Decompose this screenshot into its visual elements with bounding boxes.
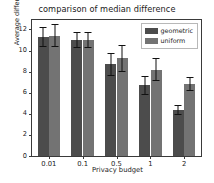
y-tick-mark [29,72,32,73]
bar-geometric-0.01 [38,37,49,156]
error-bar-cap-bottom [186,90,193,91]
bar-uniform-0.01 [49,36,60,156]
y-tick-label: 0 [13,152,27,160]
error-bar-geometric-0.1 [71,32,82,48]
error-bar-cap-bottom [51,46,58,47]
legend-swatch-uniform [145,38,158,44]
y-tick-label: 4 [13,109,27,117]
error-bar-line [76,32,77,48]
error-bar-uniform-0.01 [49,24,60,47]
error-bar-cap-top [51,24,58,25]
y-tick-mark [29,156,32,157]
error-bar-line [122,45,123,72]
error-bar-line [110,53,111,76]
y-tick-mark [29,93,32,94]
y-tick-mark [29,29,32,30]
x-tick-mark [83,156,84,159]
error-bar-cap-bottom [85,47,92,48]
error-bar-line [144,76,145,95]
legend-swatch-geometric [145,28,158,34]
bar-uniform-2 [184,84,195,156]
error-bar-geometric-1 [139,76,150,95]
error-bar-cap-top [175,105,182,106]
error-bar-geometric-2 [173,105,184,114]
error-bar-cap-top [73,32,80,33]
error-bar-line [189,77,190,91]
error-bar-cap-bottom [40,46,47,47]
error-bar-line [43,27,44,47]
legend-label-geometric: geometric [161,27,193,35]
x-tick-mark [150,156,151,159]
bar-geometric-0.1 [71,40,82,156]
error-bar-geometric-0.5 [105,53,116,76]
bar-geometric-0.5 [105,64,116,156]
error-bar-cap-bottom [141,94,148,95]
error-bar-cap-bottom [153,80,160,81]
error-bar-cap-top [85,32,92,33]
bar-geometric-2 [173,110,184,156]
chart-title: comparison of median difference [0,4,214,14]
y-tick-mark [29,114,32,115]
error-bar-line [88,32,89,48]
error-bar-uniform-0.5 [117,45,128,72]
bar-geometric-1 [139,85,150,156]
error-bar-cap-top [186,77,193,78]
y-axis-label: Average difference [13,0,21,64]
legend-label-uniform: uniform [161,37,186,45]
legend-item-geometric: geometric [145,27,193,35]
error-bar-cap-top [40,27,47,28]
error-bar-cap-bottom [107,75,114,76]
y-tick-label: 8 [13,67,27,75]
error-bar-geometric-0.01 [38,27,49,47]
error-bar-cap-top [107,53,114,54]
y-tick-label: 2 [13,130,27,138]
error-bar-cap-bottom [175,114,182,115]
error-bar-cap-bottom [73,47,80,48]
y-tick-mark [29,51,32,52]
error-bar-cap-bottom [119,71,126,72]
plot-area: 0246810120.010.10.512 Average difference… [31,19,202,157]
chart-legend: geometric uniform [141,23,198,49]
bar-uniform-1 [151,70,162,156]
y-tick-mark [29,135,32,136]
x-tick-mark [49,156,50,159]
x-axis-label: Privacy budget [32,166,203,174]
y-tick-label: 6 [13,88,27,96]
error-bar-uniform-2 [184,77,195,91]
x-tick-mark [184,156,185,159]
error-bar-line [54,24,55,47]
error-bar-uniform-1 [151,58,162,81]
x-tick-mark [117,156,118,159]
error-bar-cap-top [141,76,148,77]
legend-item-uniform: uniform [145,37,193,45]
bar-chart-figure: comparison of median difference 02468101… [0,0,214,183]
error-bar-cap-top [119,45,126,46]
error-bar-cap-top [153,58,160,59]
error-bar-line [156,58,157,81]
bar-uniform-0.5 [117,58,128,156]
error-bar-uniform-0.1 [83,32,94,48]
bar-uniform-0.1 [83,40,94,156]
